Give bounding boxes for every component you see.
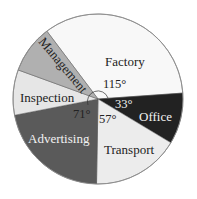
- pie-chart: Factory 115° Office 33° Transport 57° Ad…: [0, 0, 197, 199]
- angle-transport: 57°: [99, 112, 117, 126]
- angle-office: 33°: [115, 97, 133, 111]
- label-office: Office: [139, 109, 172, 124]
- label-advertising: Advertising: [28, 131, 90, 146]
- label-factory: Factory: [105, 54, 145, 69]
- label-inspection: Inspection: [20, 90, 75, 105]
- angle-advertising: 71°: [73, 107, 91, 121]
- angle-factory: 115°: [103, 77, 126, 91]
- label-transport: Transport: [104, 142, 154, 157]
